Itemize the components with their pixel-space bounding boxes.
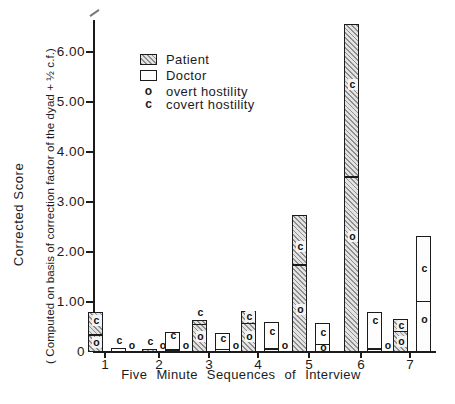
y-tick-label: 3.00 xyxy=(38,194,85,209)
patient-bar-seq5 xyxy=(292,215,307,352)
overt-covert-divider-seq6 xyxy=(344,176,359,178)
legend-label: covert hostility xyxy=(166,97,255,112)
overt-covert-divider-seq7 xyxy=(416,301,431,303)
covert-code-patient-seq7: c xyxy=(397,320,407,331)
overt-code-doctor-seq5: o xyxy=(319,342,329,353)
legend-label: Doctor xyxy=(166,68,207,83)
overt-covert-divider-seq4 xyxy=(241,323,256,325)
covert-code-doctor-seq1: c xyxy=(115,335,125,346)
overt-code-patient-seq7: o xyxy=(397,336,407,347)
y-tick-mark xyxy=(86,201,93,203)
overt-covert-divider-seq6 xyxy=(367,348,382,350)
covert-code-doctor-seq6: c xyxy=(371,315,381,326)
legend-row-doctor: Doctor xyxy=(140,68,207,82)
overt-code-doctor-seq7: o xyxy=(420,314,430,325)
hostility-bar-chart-figure: Corrected Score ( Computed on basis of c… xyxy=(0,0,455,404)
y-tick-mark xyxy=(86,301,93,303)
hostility-code-symbol: c xyxy=(140,97,157,111)
doctor-bar-seq7 xyxy=(416,236,431,352)
covert-code-doctor-seq5: c xyxy=(319,327,329,338)
overt-covert-divider-seq2 xyxy=(165,349,180,351)
patient-bar-seq6 xyxy=(344,24,359,352)
covert-code-doctor-seq4: c xyxy=(268,326,278,337)
legend-row-patient: Patient xyxy=(140,52,209,66)
overt-covert-divider-seq3 xyxy=(215,349,230,351)
hostility-code-symbol: o xyxy=(140,84,157,98)
y-tick-label: 2.00 xyxy=(38,244,85,259)
doctor-swatch-icon xyxy=(140,70,157,81)
y-tick-mark xyxy=(86,101,93,103)
x-tick-label: 7 xyxy=(400,357,420,372)
y-tick-label: 0 xyxy=(38,344,85,359)
y-tick-label: 5.00 xyxy=(38,94,85,109)
covert-code-doctor-seq3: c xyxy=(219,333,229,344)
doctor-bar-seq1 xyxy=(111,348,126,352)
covert-code-patient-seq5: c xyxy=(296,241,306,252)
overt-code-doctor-seq6: o xyxy=(383,340,393,351)
covert-code-patient-seq3: c xyxy=(196,307,206,318)
y-axis-line xyxy=(93,20,95,353)
patient-bar-seq2 xyxy=(142,349,157,352)
y-tick-mark xyxy=(86,251,93,253)
y-tick-mark xyxy=(86,151,93,153)
y-tick-label: 4.00 xyxy=(38,144,85,159)
overt-code-patient-seq4: o xyxy=(245,331,255,342)
covert-code-patient-seq1: c xyxy=(92,315,102,326)
overt-covert-divider-seq5 xyxy=(292,264,307,266)
covert-code-patient-seq2: c xyxy=(146,336,156,347)
y-axis-title: Corrected Score xyxy=(11,65,26,365)
overt-code-patient-seq6: o xyxy=(348,231,358,242)
covert-code-patient-seq4: c xyxy=(245,311,255,322)
legend-label: Patient xyxy=(166,52,209,67)
legend-row-covert-hostility: ccovert hostility xyxy=(140,97,255,111)
overt-covert-divider-seq4 xyxy=(264,348,279,350)
overt-code-patient-seq3: o xyxy=(196,331,206,342)
overt-code-patient-seq1: o xyxy=(92,337,102,348)
covert-code-doctor-seq2: c xyxy=(169,330,179,341)
y-axis-break-mark xyxy=(89,9,99,17)
covert-code-patient-seq6: c xyxy=(348,79,358,90)
y-tick-label: 1.00 xyxy=(38,294,85,309)
patient-swatch-icon xyxy=(140,54,157,65)
y-tick-label: 6.00 xyxy=(38,44,85,59)
overt-code-doctor-seq4: o xyxy=(280,340,290,351)
overt-code-patient-seq5: o xyxy=(296,304,306,315)
overt-covert-divider-seq3 xyxy=(192,324,207,326)
x-axis-title: Five Minute Sequences of Interview xyxy=(86,367,396,382)
covert-code-doctor-seq7: c xyxy=(420,263,430,274)
overt-code-doctor-seq1: o xyxy=(127,340,137,351)
overt-code-doctor-seq2: o xyxy=(181,340,191,351)
overt-code-doctor-seq3: o xyxy=(231,340,241,351)
y-tick-mark xyxy=(86,51,93,53)
overt-covert-divider-seq7 xyxy=(393,331,408,333)
